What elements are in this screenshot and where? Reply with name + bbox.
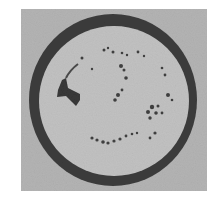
specimen-image	[0, 0, 218, 202]
